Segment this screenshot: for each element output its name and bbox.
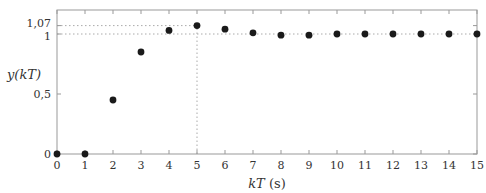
x-tick-label: 3 bbox=[138, 159, 145, 172]
data-point bbox=[54, 151, 61, 158]
data-point bbox=[222, 26, 229, 33]
x-tick-label: 10 bbox=[330, 159, 344, 172]
x-tick-label: 15 bbox=[470, 159, 484, 172]
x-axis-label: kT (s) bbox=[248, 176, 286, 191]
x-tick-label: 1 bbox=[82, 159, 89, 172]
data-point bbox=[82, 151, 89, 158]
plot-frame bbox=[57, 10, 477, 154]
y-tick-label: 0 bbox=[44, 148, 51, 161]
x-tick-label: 12 bbox=[386, 159, 400, 172]
y-tick-label: 1 bbox=[44, 30, 51, 43]
x-tick-label: 8 bbox=[278, 159, 285, 172]
x-tick-label: 11 bbox=[358, 159, 372, 172]
data-point bbox=[362, 31, 369, 38]
x-tick-label: 7 bbox=[250, 159, 257, 172]
data-point bbox=[278, 32, 285, 39]
data-points bbox=[54, 22, 481, 157]
reference-lines bbox=[57, 26, 477, 154]
data-point bbox=[250, 29, 257, 36]
data-point bbox=[418, 31, 425, 38]
y-tick-label: 1,07 bbox=[27, 17, 52, 30]
x-tick-label: 14 bbox=[442, 159, 456, 172]
data-point bbox=[446, 31, 453, 38]
y-tick-label: 0,5 bbox=[34, 88, 52, 101]
data-point bbox=[138, 49, 145, 56]
x-tick-label: 4 bbox=[166, 159, 173, 172]
x-tick-label: 5 bbox=[194, 159, 201, 172]
step-response-chart: 0123456789101112131415 00,511,07 kT (s) … bbox=[0, 0, 486, 193]
x-tick-label: 9 bbox=[306, 159, 313, 172]
data-point bbox=[474, 31, 481, 38]
x-axis-label-unit: (s) bbox=[265, 176, 286, 191]
x-axis-label-var: kT bbox=[248, 176, 266, 191]
data-point bbox=[306, 32, 313, 39]
data-point bbox=[334, 31, 341, 38]
x-tick-label: 6 bbox=[222, 159, 229, 172]
y-axis-label: y(kT) bbox=[6, 67, 41, 82]
y-axis-ticks: 00,511,07 bbox=[27, 17, 478, 161]
data-point bbox=[166, 27, 173, 34]
data-point bbox=[194, 22, 201, 29]
x-tick-label: 2 bbox=[110, 159, 117, 172]
data-point bbox=[110, 97, 117, 104]
x-tick-label: 0 bbox=[54, 159, 61, 172]
x-tick-label: 13 bbox=[414, 159, 428, 172]
data-point bbox=[390, 31, 397, 38]
